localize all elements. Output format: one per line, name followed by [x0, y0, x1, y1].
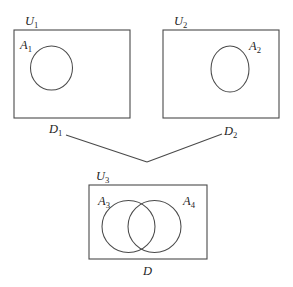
set-label-a2: A2 [248, 39, 261, 55]
universe-label-u1-sub: 1 [34, 20, 38, 30]
diagram-canvas: U1 A1 U2 A2 D1 D2 U3 A3 A4 D [0, 0, 293, 287]
set-label-a4-base: A [182, 194, 191, 208]
set-label-a2-sub: 2 [257, 45, 261, 55]
connector-label-d2-sub: 2 [233, 130, 237, 140]
result-label-d: D [142, 264, 152, 278]
set-label-a3-sub: 3 [106, 200, 110, 210]
set-label-a1: A1 [19, 38, 32, 54]
universe-rect-u2 [163, 30, 279, 118]
set-label-a3: A3 [97, 194, 110, 210]
connector-label-d2: D2 [223, 124, 237, 140]
set-label-a4: A4 [182, 194, 196, 210]
connector-label-d1-base: D [48, 122, 58, 136]
universe-label-u1: U1 [25, 14, 38, 30]
universe-label-u2-sub: 2 [183, 20, 187, 30]
connector-label-d1-sub: 1 [58, 128, 62, 138]
set-shape-a2 [211, 46, 249, 92]
faint-caption [96, 0, 200, 14]
connector-line-d2 [147, 134, 222, 162]
universe-label-u2: U2 [174, 14, 187, 30]
set-label-a4-sub: 4 [191, 200, 196, 210]
set-label-a2-base: A [248, 39, 257, 53]
set-label-a1-sub: 1 [28, 44, 32, 54]
connector-line-d1 [66, 135, 147, 162]
set-label-a1-base: A [19, 38, 28, 52]
universe-label-u3: U3 [96, 169, 109, 185]
set-shape-a1 [31, 46, 73, 90]
connector-label-d1: D1 [48, 122, 62, 138]
connector-label-d2-base: D [223, 124, 233, 138]
set-theory-diagram: U1 A1 U2 A2 D1 D2 U3 A3 A4 D [0, 0, 293, 287]
universe-label-u3-sub: 3 [105, 175, 109, 185]
set-label-a3-base: A [97, 194, 106, 208]
